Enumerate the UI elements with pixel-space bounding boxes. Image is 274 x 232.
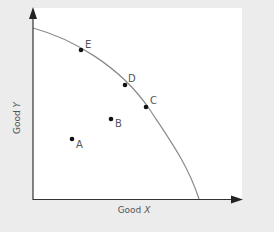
point-a-label: A (76, 139, 83, 150)
point-d-label: D (128, 73, 136, 84)
y-axis-label: Good Y (12, 100, 22, 134)
point-c: C (144, 95, 157, 109)
y-axis-arrow-icon (29, 7, 37, 19)
point-a: A (70, 137, 83, 150)
frontier-curve (33, 28, 199, 199)
x-axis-arrow-icon (231, 196, 243, 204)
point-e-label: E (85, 39, 91, 50)
point-b: B (109, 117, 122, 129)
point-c-label: C (150, 95, 157, 106)
point-b-label: B (115, 118, 122, 129)
ppf-chart: E D C B A Good X Good Y (0, 0, 274, 232)
x-axis-label: Good X (118, 205, 152, 215)
